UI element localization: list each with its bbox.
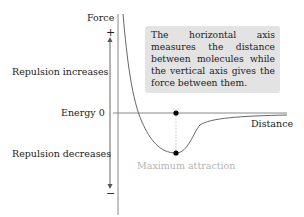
repulsion-double-arrow (108, 37, 113, 189)
repulsion-decreases-label: Repulsion decreases (12, 149, 111, 159)
minimum-point-dot (173, 150, 178, 155)
minus-sign: − (106, 188, 115, 199)
distance-axis-label: Distance (251, 119, 293, 129)
maximum-attraction-label: Maximum attraction (137, 161, 235, 171)
repulsion-increases-label: Repulsion increases (12, 67, 108, 77)
energy-zero-label: Energy 0 (61, 108, 105, 118)
plus-sign: + (106, 27, 115, 38)
explanation-note: The horizontal axis measures the distanc… (145, 26, 280, 93)
zero-point-dot (173, 110, 178, 115)
force-axis-label: Force (87, 13, 114, 23)
